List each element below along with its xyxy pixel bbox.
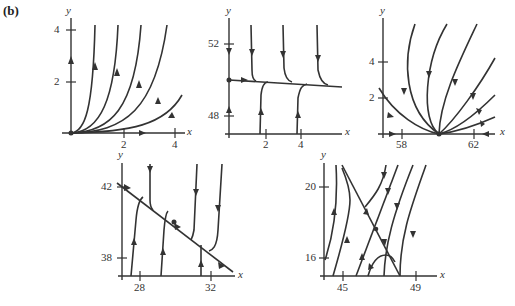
panel-5-y-tick: 16	[305, 251, 316, 263]
panel-4-x-tick: 28	[134, 281, 145, 293]
panel-1-plot	[62, 18, 185, 138]
panel-3-y-tick: 4	[369, 55, 375, 67]
panel-1-y-tick: 4	[54, 23, 60, 35]
panel-3-x-tick: 62	[468, 138, 479, 150]
panel-5-plot	[319, 163, 437, 281]
panel-3-y-tick: 2	[369, 91, 375, 103]
panel-3-x-tick: 58	[396, 138, 407, 150]
panel-2-plot	[224, 18, 342, 139]
panel-4-plot	[117, 163, 235, 281]
panel-2-x-tick: 2	[263, 138, 269, 150]
panel-4-x-axis-label: x	[238, 268, 243, 280]
panel-1-x-tick: 4	[172, 138, 178, 150]
panel-1-y-axis-label: y	[66, 4, 71, 16]
panel-3-y-axis-label: y	[380, 4, 385, 16]
panel-2-x-axis-label: x	[345, 125, 350, 137]
panel-2-y-axis-label: y	[226, 4, 231, 16]
panel-3-x-axis-label: x	[500, 125, 505, 137]
panel-5-y-axis-label: y	[321, 148, 326, 160]
panel-4-y-tick: 38	[101, 251, 112, 263]
panel-1-y-tick: 2	[54, 75, 60, 87]
panel-1-x-axis-label: x	[187, 125, 192, 137]
panel-3-plot	[378, 18, 495, 139]
panel-2-x-tick: 4	[298, 138, 304, 150]
panel-2-y-tick: 52	[208, 37, 219, 49]
phase-portraits-svg	[0, 0, 515, 306]
panel-4-x-tick: 32	[205, 281, 216, 293]
panel-5-y-tick: 20	[305, 180, 316, 192]
panel-4-y-axis-label: y	[118, 148, 123, 160]
panel-5-x-axis-label: x	[440, 268, 445, 280]
panel-5-x-tick: 49	[410, 281, 421, 293]
panel-5-x-tick: 45	[337, 281, 348, 293]
panel-2-y-tick: 48	[208, 109, 219, 121]
panel-4-y-tick: 42	[101, 180, 112, 192]
phase-portrait-figure: (b)	[0, 0, 515, 306]
